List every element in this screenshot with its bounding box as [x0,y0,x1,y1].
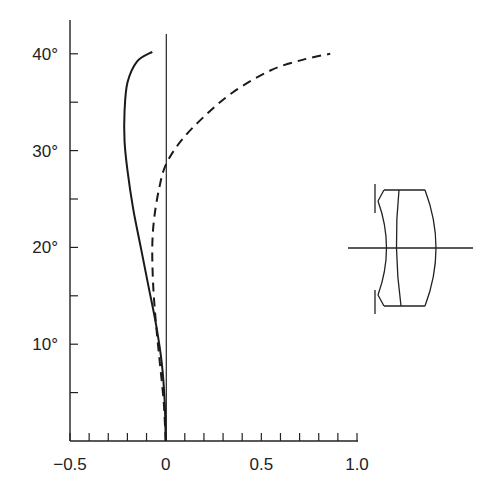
y-ticks [70,54,78,393]
x-tick-label: −0.5 [53,455,87,474]
x-tick-labels: −0.500.51.0 [53,455,369,474]
y-tick-label: 30° [32,142,58,161]
dashed-curve [152,54,330,441]
y-tick-label: 20° [32,238,58,257]
solid-curve [124,52,165,441]
y-tick-labels: 10°20°30°40° [32,45,58,354]
aberration-chart: −0.500.51.0 10°20°30°40° [0,0,494,491]
x-tick-label: 1.0 [345,455,369,474]
axes [70,20,358,441]
lens-diagram [348,184,473,314]
y-tick-label: 40° [32,45,58,64]
series-lines [124,52,330,441]
x-ticks [70,433,357,441]
x-tick-label: 0.5 [250,455,274,474]
x-tick-label: 0 [161,455,170,474]
y-tick-label: 10° [32,335,58,354]
